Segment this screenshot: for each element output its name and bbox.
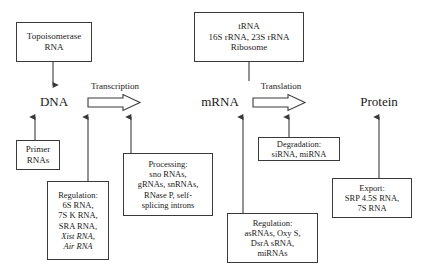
box-primer-line-1: RNAs <box>27 155 50 166</box>
box-degradation-line-0: Degradation: <box>277 139 321 149</box>
box-regulation-dna-line-3: SRA RNA, <box>59 221 97 231</box>
label-transcription: Transcription <box>78 81 152 91</box>
box-regulation-mrna: Regulation: asRNAs, Oxy S, DsrA sRNA, mi… <box>227 213 318 263</box>
rna-roles-diagram: Topoisomerase RNA tRNA 16S rRNA, 23S rRN… <box>0 0 431 277</box>
box-processing-line-0: Processing: <box>148 159 187 169</box>
box-export-line-1: SRP 4.5S RNA, <box>345 193 399 203</box>
box-regulation-dna-line-2: 7S K RNA, <box>58 210 97 220</box>
box-export-line-0: Export: <box>359 183 385 193</box>
box-topoisomerase-line-1: RNA <box>44 42 63 53</box>
box-ribosome: tRNA 16S rRNA, 23S rRNA Ribosome <box>194 12 304 62</box>
box-regulation-dna: Regulation: 6S RNA, 7S K RNA, SRA RNA, X… <box>47 181 109 260</box>
box-processing-line-4: splicing introns <box>142 200 195 210</box>
box-topoisomerase: Topoisomerase RNA <box>16 22 92 62</box>
box-processing-line-3: RNase P, self- <box>144 190 192 200</box>
box-export-line-2: 7S RNA <box>357 203 386 213</box>
box-regulation-dna-line-0: Regulation: <box>58 190 98 200</box>
box-ribosome-line-1: 16S rRNA, 23S rRNA <box>208 32 289 43</box>
box-ribosome-line-2: Ribosome <box>231 42 268 53</box>
box-degradation-line-1: siRNA, miRNA <box>272 149 327 159</box>
box-regulation-mrna-line-0: Regulation: <box>253 218 293 228</box>
stage-mrna: mRNA <box>192 94 248 110</box>
stage-protein: Protein <box>348 94 410 110</box>
label-translation: Translation <box>246 81 316 91</box>
stage-dna: DNA <box>32 94 76 110</box>
box-regulation-dna-line-1: 6S RNA, <box>62 200 93 210</box>
box-primer-rnas: Primer RNAs <box>16 140 60 170</box>
translation-block-arrow <box>253 95 305 111</box>
box-primer-line-0: Primer <box>26 144 51 155</box>
box-regulation-dna-line-5: Air RNA <box>63 241 92 251</box>
box-ribosome-line-0: tRNA <box>238 21 260 32</box>
box-regulation-mrna-line-3: miRNAs <box>257 248 287 258</box>
box-export: Export: SRP 4.5S RNA, 7S RNA <box>332 178 412 218</box>
box-processing-line-2: gRNAs, snRNAs, <box>138 179 199 189</box>
box-regulation-dna-line-4: Xist RNA, <box>61 231 95 241</box>
box-regulation-mrna-line-2: DsrA sRNA, <box>251 238 294 248</box>
box-regulation-mrna-line-1: asRNAs, Oxy S, <box>244 228 300 238</box>
box-processing-line-1: sno RNAs, <box>149 169 186 179</box>
transcription-block-arrow <box>88 95 140 111</box>
box-processing: Processing: sno RNAs, gRNAs, snRNAs, RNa… <box>123 153 213 216</box>
box-degradation: Degradation: siRNA, miRNA <box>258 137 340 161</box>
box-topoisomerase-line-0: Topoisomerase <box>27 31 81 42</box>
